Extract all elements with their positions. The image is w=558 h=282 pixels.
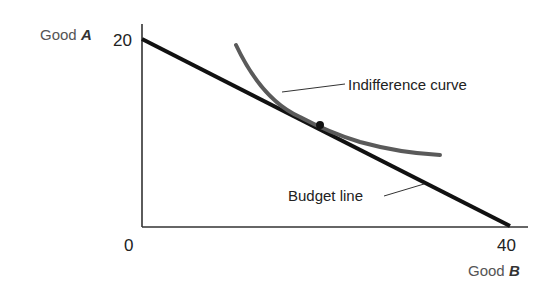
y-intercept-label: 20 <box>113 31 132 50</box>
origin-label: 0 <box>124 236 133 255</box>
consumer-choice-diagram: Good A 20 0 40 Good B Indifference curve… <box>0 0 558 282</box>
indifference-curve-label: Indifference curve <box>348 76 467 93</box>
tangency-point <box>316 121 324 129</box>
x-axis-title: Good B <box>468 262 520 279</box>
x-intercept-label: 40 <box>497 236 516 255</box>
budget-leader-line <box>384 184 424 196</box>
y-axis-title: Good A <box>40 26 92 43</box>
budget-line-label: Budget line <box>288 187 363 204</box>
indifference-leader-line <box>282 84 345 92</box>
